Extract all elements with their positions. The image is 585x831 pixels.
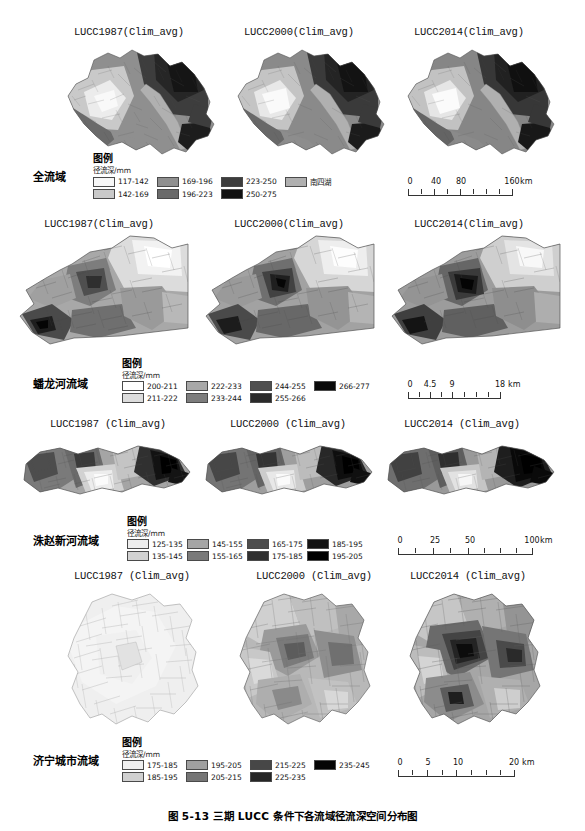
scalebar-num: 40: [431, 177, 441, 186]
legend-row-3: 图例 径流深/mm 125-135 145-155 165-175: [127, 516, 367, 561]
map-basin-zhuzhaoxinhe-2014[interactable]: [378, 434, 558, 506]
legend-item[interactable]: 175-185: [122, 760, 186, 770]
scalebar-row-3: 0 25 50 100 km: [398, 536, 538, 555]
legend-swatch-label: 142-169: [118, 190, 149, 199]
legend-item[interactable]: 211-222: [122, 393, 186, 403]
legend-item[interactable]: 155-165: [187, 551, 247, 561]
scalebar-tick: [408, 189, 409, 196]
legend-heading-1: 图例: [93, 153, 349, 165]
legend-item[interactable]: 195-205: [186, 760, 250, 770]
legend-item[interactable]: 165-175: [247, 539, 307, 549]
legend-swatch-label: 255-266: [275, 394, 306, 403]
legend-item[interactable]: 223-250: [221, 177, 285, 187]
legend-swatch: [186, 760, 208, 770]
basin-label-4: 济宁城市流域: [33, 752, 99, 768]
scalebar-tick: [415, 548, 416, 553]
legend-item[interactable]: 145-155: [187, 539, 247, 549]
legend-swatch: [221, 189, 243, 199]
legend-item[interactable]: 225-235: [250, 772, 314, 782]
legend-item[interactable]: 185-195: [307, 539, 367, 549]
legend-swatch-label: 169-196: [182, 177, 213, 186]
map-basin-jining-1987[interactable]: [56, 586, 206, 736]
legend-item[interactable]: 222-233: [186, 381, 250, 391]
map-basin-full-2014[interactable]: [398, 44, 558, 159]
map-basin-panlong-2000[interactable]: [198, 232, 378, 352]
scalebar-num: 0: [407, 380, 412, 389]
legend-swatch: [314, 381, 336, 391]
map-basin-full-2000[interactable]: [228, 44, 388, 159]
map-row-2: LUCC1987(Clim_avg) LUCC2000(Clim_avg) LU…: [0, 212, 585, 412]
legend-item[interactable]: 266-277: [314, 381, 378, 391]
scalebar-tick: [473, 189, 474, 194]
legend-item[interactable]: 169-196: [157, 177, 221, 187]
legend-swatch: [187, 551, 209, 561]
legend-item[interactable]: 233-244: [186, 393, 250, 403]
legend-swatch: [285, 177, 307, 187]
legend-item[interactable]: 125-135: [127, 539, 187, 549]
legend-swatch-label: 223-250: [246, 177, 277, 186]
map-basin-zhuzhaoxinhe-1987[interactable]: [14, 434, 194, 506]
legend-item-lake[interactable]: 南四湖: [285, 176, 349, 187]
scalebar-tick: [442, 770, 443, 775]
legend-line: 185-195 205-215 225-235: [122, 772, 378, 782]
legend-line: 211-222 233-244 255-266: [122, 393, 378, 403]
legend-swatch-label: 南四湖: [310, 176, 331, 187]
scalebar-numbers: 0 5 10 20 km: [398, 758, 538, 770]
scalebar-tick: [532, 548, 533, 555]
map-basin-jining-2014[interactable]: [398, 586, 548, 736]
map-row-4: LUCC1987 (Clim_avg) LUCC2000 (Clim_avg) …: [0, 564, 585, 804]
scalebar-tick: [514, 770, 515, 777]
legend-swatch: [314, 760, 336, 770]
map-basin-panlong-2014[interactable]: [384, 232, 564, 352]
legend-swatch-label: 175-185: [147, 761, 178, 770]
map-svg: [228, 586, 378, 736]
scalebar-unit: km: [540, 536, 552, 545]
legend-swatch-label: 233-244: [211, 394, 242, 403]
legend-item[interactable]: 215-225: [250, 760, 314, 770]
map-basin-zhuzhaoxinhe-2000[interactable]: [196, 434, 376, 506]
map-basin-jining-2000[interactable]: [228, 586, 378, 736]
map-svg: [398, 586, 548, 736]
legend-item[interactable]: 185-195: [122, 772, 186, 782]
legend-row-2: 图例 径流深/mm 200-211 222-233 244-255: [122, 358, 378, 403]
scalebar-tick: [486, 189, 487, 194]
legend-swatch: [307, 551, 329, 561]
scalebar-numbers: 0 25 50 100 km: [398, 536, 538, 548]
legend-item[interactable]: 235-245: [314, 760, 378, 770]
scalebar-num: 25: [430, 536, 440, 545]
scalebar-num: 20: [509, 758, 519, 767]
legend-swatch-label: 266-277: [339, 382, 370, 391]
scalebar-num: 10: [453, 758, 463, 767]
legend-item[interactable]: 200-211: [122, 381, 186, 391]
legend-swatch-label: 155-165: [212, 552, 243, 561]
legend-item[interactable]: 250-275: [221, 189, 285, 199]
scalebar-row-2: 0 4.5 9 18 km: [408, 380, 533, 399]
legend-item[interactable]: 244-255: [250, 381, 314, 391]
legend-item[interactable]: 196-223: [157, 189, 221, 199]
scalebar-num: 100: [524, 536, 539, 545]
legend-item[interactable]: 195-205: [307, 551, 367, 561]
scalebar-axis: [408, 189, 533, 196]
legend-grid-1: 117-142 169-196 223-250 南四湖: [93, 176, 349, 199]
map-basin-panlong-1987[interactable]: [12, 232, 192, 352]
legend-item[interactable]: 255-266: [250, 393, 314, 403]
legend-item[interactable]: 205-215: [186, 772, 250, 782]
scalebar-tick: [500, 770, 501, 775]
panel-title-r2c2: LUCC2000(Clim_avg): [234, 218, 344, 230]
map-basin-full-1987[interactable]: [58, 44, 218, 159]
scalebar-tick: [486, 770, 487, 775]
scalebar-tick: [427, 770, 428, 777]
scalebar-num: 5: [425, 758, 430, 767]
legend-grid-4: 175-185 195-205 215-225 235-245: [122, 760, 378, 782]
scalebar-axis: [398, 770, 538, 777]
legend-item[interactable]: 142-169: [93, 189, 157, 199]
map-svg: [12, 232, 192, 352]
legend-item[interactable]: 117-142: [93, 177, 157, 187]
legend-line: 125-135 145-155 165-175 185-195: [127, 539, 367, 549]
legend-item[interactable]: 135-145: [127, 551, 187, 561]
panel-title-r2c3: LUCC2014(Clim_avg): [414, 218, 524, 230]
panel-title-r3c2: LUCC2000 (Clim_avg): [230, 418, 346, 430]
legend-item[interactable]: 175-185: [247, 551, 307, 561]
legend-swatch-label: 235-245: [339, 761, 370, 770]
legend-swatch: [250, 393, 272, 403]
